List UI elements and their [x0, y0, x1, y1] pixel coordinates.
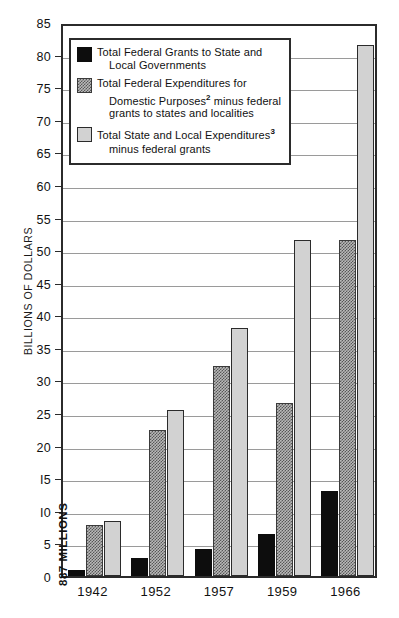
- y-tick-label: 55: [5, 213, 51, 227]
- legend-line-1: Total Federal Grants to State and: [97, 46, 262, 58]
- y-tick-label: 5: [5, 538, 51, 552]
- legend-line-1: Total Federal Expenditures for: [97, 77, 247, 89]
- bar-federal-domestic-expenditures-1957: [213, 366, 230, 576]
- y-tick-label: 70: [5, 115, 51, 129]
- legend-label-state-local-expenditures: Total State and Local Expenditures3 minu…: [97, 126, 275, 156]
- y-tick-mark: [55, 381, 61, 382]
- y-tick-label: 60: [5, 180, 51, 194]
- y-tick-mark: [55, 251, 61, 252]
- legend-label-federal-domestic-expenditures: Total Federal Expenditures for Domestic …: [97, 77, 281, 120]
- bar-state-local-expenditures-1959: [294, 240, 311, 576]
- y-tick-mark: [55, 284, 61, 285]
- bar-federal-domestic-expenditures-1952: [149, 430, 166, 576]
- legend-swatch-federal-domestic-expenditures: [77, 78, 92, 93]
- legend-line-2-tail: minus federal: [211, 94, 282, 106]
- x-tick-label-1966: 1966: [330, 584, 361, 599]
- legend-swatch-state-local-expenditures: [77, 127, 92, 142]
- y-tick-label: 85: [5, 17, 51, 31]
- y-tick-mark: [55, 479, 61, 480]
- x-tick-label-1957: 1957: [204, 584, 235, 599]
- y-tick-mark: [55, 186, 61, 187]
- y-tick-label: 40: [5, 310, 51, 324]
- bar-federal-domestic-expenditures-1959: [276, 403, 293, 576]
- y-tick-mark: [55, 121, 61, 122]
- bar-federal-grants-1966: [321, 491, 338, 576]
- legend-line-3: grants to states and localities: [97, 107, 281, 120]
- x-tick-label-1952: 1952: [141, 584, 172, 599]
- y-tick-label: 50: [5, 245, 51, 259]
- chart-legend: Total Federal Grants to State and Local …: [69, 38, 291, 165]
- x-tick-label-1959: 1959: [267, 584, 298, 599]
- y-tick-label: I5: [5, 473, 51, 487]
- bar-state-local-expenditures-1952: [167, 410, 184, 576]
- x-tick-label-1942: 1942: [77, 584, 108, 599]
- y-tick-label: 80: [5, 50, 51, 64]
- legend-line-2: minus federal grants: [97, 143, 275, 156]
- legend-swatch-federal-grants: [77, 47, 92, 62]
- bar-annotation-first-bar-value: 887 MILLIONS: [57, 503, 69, 586]
- y-tick-label: 35: [5, 343, 51, 357]
- y-tick-label: 0: [5, 571, 51, 585]
- y-tick-mark: [55, 447, 61, 448]
- y-tick-label: 45: [5, 278, 51, 292]
- y-tick-mark: [55, 153, 61, 154]
- bar-federal-grants-1957: [195, 549, 212, 576]
- legend-line-1: Total State and Local Expenditures3: [97, 129, 275, 141]
- y-tick-label: I0: [5, 506, 51, 520]
- legend-item-state-local-expenditures: Total State and Local Expenditures3 minu…: [77, 126, 283, 156]
- y-tick-label: 65: [5, 147, 51, 161]
- y-tick-mark: [55, 219, 61, 220]
- bar-federal-domestic-expenditures-1942: [86, 525, 103, 576]
- bar-federal-grants-1942: [68, 570, 85, 576]
- bar-state-local-expenditures-1942: [104, 521, 121, 576]
- bar-federal-grants-1952: [131, 558, 148, 576]
- legend-item-federal-domestic-expenditures: Total Federal Expenditures for Domestic …: [77, 77, 283, 120]
- y-tick-mark: [55, 56, 61, 57]
- y-tick-mark: [55, 349, 61, 350]
- bar-federal-domestic-expenditures-1966: [339, 240, 356, 576]
- legend-line-2: Domestic Purposes2 minus federal: [97, 91, 281, 108]
- legend-line-2-text: Domestic Purposes: [109, 94, 206, 106]
- y-tick-label: 20: [5, 441, 51, 455]
- y-tick-mark: [55, 316, 61, 317]
- y-tick-label: 30: [5, 375, 51, 389]
- y-tick-label: 25: [5, 408, 51, 422]
- y-tick-mark: [55, 414, 61, 415]
- legend-item-federal-grants: Total Federal Grants to State and Local …: [77, 46, 283, 72]
- footnote-marker-3: 3: [270, 128, 275, 137]
- legend-line-1-text: Total State and Local Expenditures: [97, 129, 270, 141]
- legend-line-2: Local Governments: [97, 59, 262, 72]
- bar-group-1966: [321, 26, 374, 576]
- legend-label-federal-grants: Total Federal Grants to State and Local …: [97, 46, 262, 72]
- bar-federal-grants-1959: [258, 534, 275, 576]
- bar-state-local-expenditures-1966: [357, 45, 374, 576]
- y-tick-label: 75: [5, 82, 51, 96]
- y-tick-mark: [55, 88, 61, 89]
- bar-chart: BILLIONS OF DOLLARS 05I0I520253035404550…: [0, 0, 399, 618]
- bar-state-local-expenditures-1957: [231, 328, 248, 576]
